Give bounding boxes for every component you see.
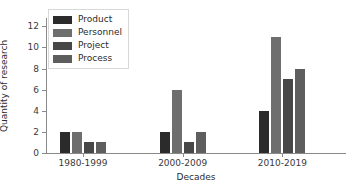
y-tick-label: 10 bbox=[28, 43, 39, 52]
bar bbox=[196, 132, 206, 153]
legend-item: Project bbox=[53, 39, 122, 52]
x-axis-label: Decades bbox=[177, 172, 216, 182]
legend-label: Product bbox=[78, 15, 112, 24]
y-axis-label: Quantity of research bbox=[0, 40, 9, 132]
y-tick-label: 12 bbox=[28, 22, 39, 31]
bar bbox=[259, 111, 269, 153]
y-tick-mark bbox=[42, 90, 46, 91]
y-tick-mark bbox=[42, 153, 46, 154]
x-axis-spine bbox=[46, 153, 346, 154]
bar bbox=[72, 132, 82, 153]
y-tick-label: 2 bbox=[33, 127, 39, 136]
legend-item: Product bbox=[53, 13, 122, 26]
y-tick-mark bbox=[42, 111, 46, 112]
y-tick-label: 6 bbox=[33, 85, 39, 94]
legend-swatch bbox=[53, 16, 72, 24]
y-tick-mark bbox=[42, 47, 46, 48]
y-tick-label: 8 bbox=[33, 64, 39, 73]
y-tick-label: 4 bbox=[33, 106, 39, 115]
legend-label: Personnel bbox=[78, 28, 122, 37]
bar bbox=[172, 90, 182, 153]
legend-swatch bbox=[53, 42, 72, 50]
legend-swatch bbox=[53, 55, 72, 63]
x-tick-label: 2000-2009 bbox=[158, 159, 207, 168]
bar bbox=[283, 79, 293, 153]
y-tick-mark bbox=[42, 26, 46, 27]
y-tick-mark bbox=[42, 132, 46, 133]
legend-label: Project bbox=[78, 41, 109, 50]
y-tick-label: 0 bbox=[33, 149, 39, 158]
bar bbox=[184, 142, 194, 153]
x-tick-mark bbox=[282, 153, 283, 157]
bar bbox=[295, 69, 305, 153]
x-tick-label: 1980-1999 bbox=[58, 159, 107, 168]
y-tick-mark bbox=[42, 69, 46, 70]
bar bbox=[96, 142, 106, 153]
legend-item: Personnel bbox=[53, 26, 122, 39]
legend-label: Process bbox=[78, 54, 112, 63]
bar bbox=[271, 37, 281, 153]
x-tick-label: 2010-2019 bbox=[258, 159, 307, 168]
bar bbox=[160, 132, 170, 153]
bar bbox=[60, 132, 70, 153]
legend-item: Process bbox=[53, 52, 122, 65]
bar bbox=[84, 142, 94, 153]
bar-chart-figure: Quantity of research Decades 024681012 1… bbox=[0, 0, 356, 189]
y-axis-label-text: Quantity of research bbox=[0, 40, 9, 132]
x-tick-mark bbox=[183, 153, 184, 157]
legend-swatch bbox=[53, 29, 72, 37]
x-tick-mark bbox=[83, 153, 84, 157]
legend: ProductPersonnelProjectProcess bbox=[48, 9, 129, 69]
